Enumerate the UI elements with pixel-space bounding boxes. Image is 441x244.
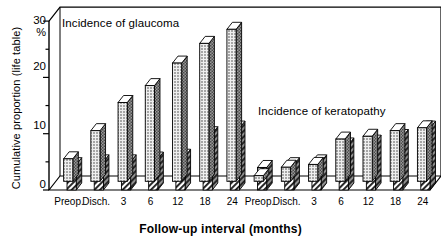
bar-keratopathy-6-dotted-side	[345, 132, 351, 181]
bar-keratopathy-18-dotted	[390, 131, 399, 182]
bar-glaucoma-18-dotted	[200, 43, 209, 181]
bar-keratopathy-3-dotted	[309, 164, 318, 181]
bar-glaucoma-Preop-dotted	[64, 159, 73, 182]
annotation-keratopathy: Incidence of keratopathy	[258, 105, 386, 117]
bar-keratopathy-24-dotted-side	[427, 121, 433, 181]
bar-glaucoma-18-dotted-side	[209, 36, 215, 181]
bar-keratopathy-12-dotted-side	[372, 129, 378, 181]
bar-glaucoma-12-dotted-side	[182, 56, 188, 181]
bar-glaucoma-24-dotted	[227, 29, 236, 181]
bar-keratopathy-12-dotted	[363, 136, 372, 181]
bar-glaucoma-3-dotted	[118, 103, 127, 182]
bar-keratopathy-Disch-dotted	[281, 167, 290, 181]
bar-glaucoma-24-dotted-side	[236, 22, 242, 181]
plot-area	[0, 0, 441, 244]
bar-glaucoma-Disch-dotted	[91, 131, 100, 182]
bar-keratopathy-24-dotted	[417, 128, 426, 181]
bar-glaucoma-6-dotted	[145, 86, 154, 182]
annotation-glaucoma: Incidence of glaucoma	[62, 17, 179, 29]
bar-keratopathy-6-dotted	[336, 139, 345, 181]
bar-glaucoma-Disch-dotted-side	[100, 124, 106, 182]
bar-keratopathy-Preop-dotted	[254, 176, 263, 182]
x-tick-keratopathy-24: 24	[403, 196, 441, 207]
chart-figure: Cumulative proportion (life table) 30 % …	[0, 0, 441, 244]
bar-glaucoma-12-dotted	[172, 63, 181, 181]
bar-glaucoma-6-dotted-side	[154, 79, 160, 182]
bar-keratopathy-18-dotted-side	[399, 124, 405, 182]
bar-glaucoma-3-dotted-side	[127, 96, 133, 182]
x-axis-title: Follow-up interval (months)	[0, 222, 441, 236]
